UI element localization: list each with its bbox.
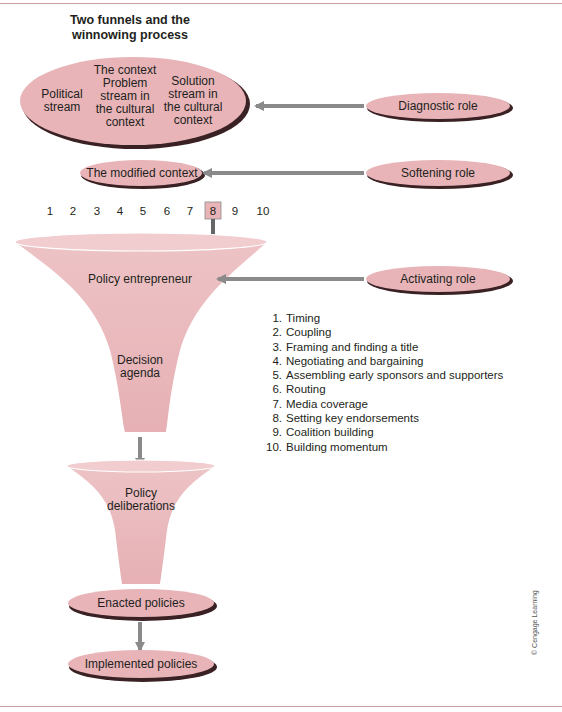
diagnostic-role-label: Diagnostic role [366,100,510,113]
policy-entrepreneur-label: Policy entrepreneur [60,273,220,286]
list-item: 3.Framing and finding a title [262,340,503,354]
step-number: 3 [90,205,104,217]
step-number: 7 [183,205,197,217]
step-number: 1 [43,205,57,217]
bottom-funnel [67,460,215,584]
list-item: 2.Coupling [262,325,503,339]
activating-role-label: Activating role [366,273,510,286]
list-item: 4.Negotiating and bargaining [262,354,503,368]
problem-stream-label: The context Problem stream in the cultur… [92,64,158,129]
bottom-rule [0,706,562,707]
political-stream-label: Political stream [32,88,92,114]
steps-list: 1.Timing 2.Coupling 3.Framing and findin… [262,311,503,454]
list-item: 9.Coalition building [262,425,503,439]
top-funnel [15,233,267,432]
softening-role-label: Softening role [366,167,510,180]
list-item: 6.Routing [262,382,503,396]
implemented-policies-label: Implemented policies [70,658,212,671]
step-number: 10 [254,205,272,217]
copyright-notice: © Cengage Learning [531,590,538,655]
list-item: 8.Setting key endorsements [262,411,503,425]
decision-agenda-label: Decision agenda [100,354,180,380]
step-number: 5 [136,205,150,217]
step-number: 2 [66,205,80,217]
step-number: 9 [228,205,242,217]
step-number-highlighted: 8 [206,205,220,217]
step-number: 4 [113,205,127,217]
list-item: 7.Media coverage [262,397,503,411]
list-item: 10.Building momentum [262,440,503,454]
list-item: 1.Timing [262,311,503,325]
enacted-policies-label: Enacted policies [70,597,212,610]
step-number: 6 [160,205,174,217]
policy-deliberations-label: Policy deliberations [95,487,187,513]
solution-stream-label: Solution stream in the cultural context [160,75,226,127]
list-item: 5.Assembling early sponsors and supporte… [262,368,503,382]
modified-context-label: The modified context [80,167,204,180]
